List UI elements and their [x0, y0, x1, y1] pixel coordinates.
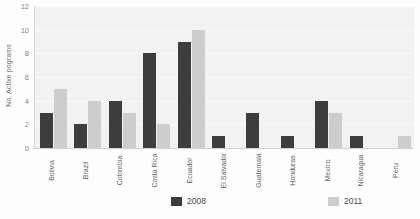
- x-axis-label-text: El Salvador: [220, 153, 227, 189]
- bar: [281, 136, 294, 148]
- bar: [212, 136, 225, 148]
- bar: [398, 136, 411, 148]
- x-axis-category-labels: BoliviaBrazilColombiaCosta RicaEcuadorEl…: [34, 150, 413, 194]
- bar: [350, 136, 363, 148]
- x-axis-label-text: Ecuador: [186, 157, 193, 183]
- bar: [54, 89, 67, 148]
- bar: [40, 113, 53, 149]
- bar-group: [276, 6, 310, 148]
- bar: [329, 113, 342, 149]
- chart-legend: 20082011: [34, 196, 413, 212]
- y-axis-tick-label: 6: [25, 73, 29, 82]
- legend-entry-2008[interactable]: 2008: [171, 196, 206, 206]
- bar: [109, 101, 122, 148]
- bar-group: [69, 6, 103, 148]
- bar: [246, 113, 259, 149]
- x-axis-label-text: Costa Rica: [151, 153, 158, 187]
- legend-entry-2011[interactable]: 2011: [328, 196, 362, 206]
- x-axis-label-text: Peru: [392, 163, 399, 178]
- bar-group: [311, 6, 345, 148]
- bar: [74, 124, 87, 148]
- x-axis-label-text: Colombia: [117, 156, 124, 186]
- bar: [192, 30, 205, 148]
- bar-group: [207, 6, 241, 148]
- x-axis-label-text: Brazil: [82, 162, 89, 180]
- x-axis-line: [33, 148, 413, 149]
- bar: [88, 101, 101, 148]
- bar-group: [345, 6, 379, 148]
- plot-area: [34, 6, 414, 148]
- y-axis-tick-labels: 024681012: [16, 0, 32, 154]
- legend-label: 2008: [187, 196, 206, 206]
- legend-label: 2011: [344, 196, 362, 206]
- x-axis-label-text: Bolivia: [48, 160, 55, 181]
- y-axis-tick-label: 12: [21, 2, 29, 11]
- bars-layer: [35, 6, 414, 148]
- bar-group: [173, 6, 207, 148]
- bar: [143, 53, 156, 148]
- bar-chart: No. Active pograms 024681012 BoliviaBraz…: [0, 0, 420, 219]
- bar: [123, 113, 136, 149]
- bar-group: [380, 6, 414, 148]
- bar-group: [104, 6, 138, 148]
- bar-group: [35, 6, 69, 148]
- y-axis-title: No. Active pograms: [0, 0, 16, 150]
- bar-group: [138, 6, 172, 148]
- x-axis-label-text: Nicaragua: [358, 155, 365, 187]
- legend-swatch-icon: [328, 197, 339, 206]
- bar: [315, 101, 328, 148]
- x-axis-label-text: Guatemala: [254, 153, 261, 187]
- bar: [157, 124, 170, 148]
- y-axis-tick-label: 4: [25, 96, 29, 105]
- x-axis-label-peru: Peru: [374, 150, 418, 192]
- y-axis-tick-label: 2: [25, 120, 29, 129]
- y-axis-title-text: No. Active pograms: [5, 44, 12, 107]
- bar-group: [242, 6, 276, 148]
- legend-swatch-icon: [171, 197, 182, 206]
- bar: [178, 42, 191, 149]
- y-axis-tick-label: 10: [21, 25, 29, 34]
- x-axis-label-text: Mexico: [323, 159, 330, 181]
- y-axis-tick-label: 8: [25, 49, 29, 58]
- x-axis-label-text: Honduras: [289, 155, 296, 185]
